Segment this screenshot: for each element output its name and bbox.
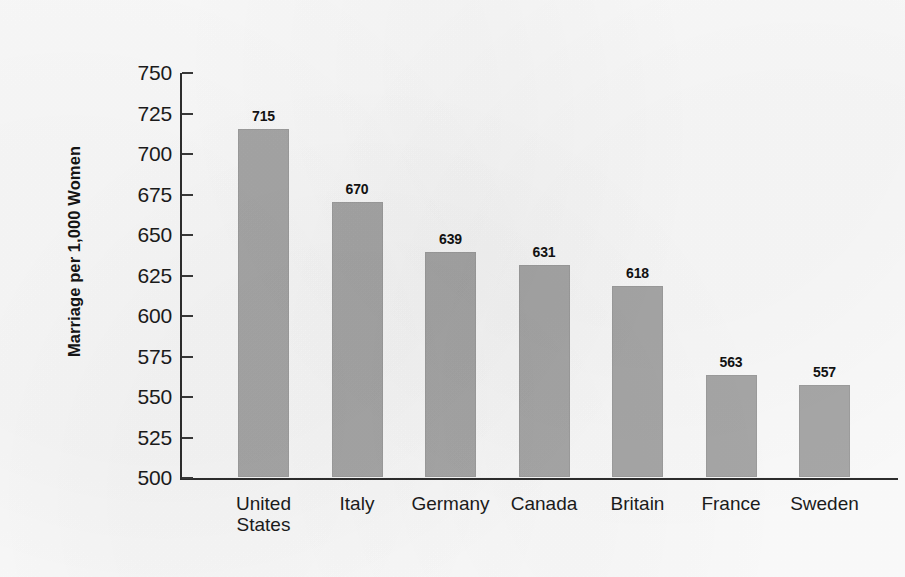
y-tick-label: 625 [138, 264, 172, 288]
bar[interactable]: 563 [706, 375, 757, 477]
y-tick-label: 725 [138, 102, 172, 126]
bar-value-label: 631 [532, 244, 555, 260]
y-axis-line [180, 73, 182, 480]
bar-value-label: 639 [439, 231, 462, 247]
y-tick: 600 [182, 315, 193, 317]
y-tick-label: 650 [138, 223, 172, 247]
bar-value-label: 557 [813, 364, 836, 380]
y-tick: 550 [182, 396, 193, 398]
bar-value-label: 670 [345, 181, 368, 197]
plot-area: 750725700675650625600575550525500 715670… [180, 73, 898, 479]
bar[interactable]: 618 [612, 286, 663, 477]
y-tick-label: 575 [138, 345, 172, 369]
y-tick-label: 600 [138, 304, 172, 328]
bar[interactable]: 631 [519, 265, 570, 477]
bar[interactable]: 715 [238, 129, 289, 477]
bar[interactable]: 639 [425, 252, 476, 477]
y-tick-label: 700 [138, 142, 172, 166]
x-axis-line [180, 478, 898, 480]
y-tick: 625 [182, 275, 193, 277]
bar-value-label: 618 [626, 265, 649, 281]
y-tick-label: 550 [138, 385, 172, 409]
bar[interactable]: 557 [799, 385, 850, 477]
y-tick: 750 [182, 72, 193, 74]
y-tick-label: 525 [138, 426, 172, 450]
y-tick-label: 675 [138, 183, 172, 207]
y-tick-label: 750 [138, 61, 172, 85]
bar[interactable]: 670 [332, 202, 383, 477]
y-tick: 650 [182, 234, 193, 236]
y-tick: 675 [182, 194, 193, 196]
y-axis-title-text: Marriage per 1,000 Women [66, 145, 85, 356]
y-tick-label: 500 [138, 466, 172, 490]
y-tick: 575 [182, 356, 193, 358]
y-tick: 725 [182, 113, 193, 115]
y-tick: 525 [182, 437, 193, 439]
y-axis-title: Marriage per 1,000 Women [58, 16, 92, 486]
bar-value-label: 715 [252, 108, 275, 124]
y-tick: 500 [182, 477, 193, 479]
x-category-label: Sweden [766, 493, 884, 514]
bar-chart: Marriage per 1,000 Women 750725700675650… [40, 16, 865, 561]
bar-value-label: 563 [719, 354, 742, 370]
y-tick: 700 [182, 153, 193, 155]
